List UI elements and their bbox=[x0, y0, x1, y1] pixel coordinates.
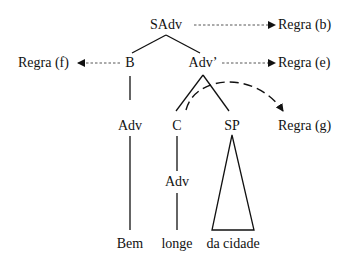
leaf-da-cidade: da cidade bbox=[206, 236, 259, 252]
sp-triangle bbox=[212, 135, 254, 230]
node-sadv: SAdv bbox=[150, 17, 182, 33]
node-adv-b: Adv bbox=[118, 118, 142, 134]
node-adv-bar: Adv’ bbox=[189, 55, 218, 71]
rule-b-label: Regra (b) bbox=[278, 17, 331, 33]
edge-advbar-sp bbox=[203, 75, 229, 111]
leaf-bem: Bem bbox=[117, 236, 143, 252]
node-c: C bbox=[172, 118, 181, 134]
edge-sadv-advbar bbox=[166, 35, 200, 53]
syntax-tree-diagram: SAdv B Adv’ Adv C SP Adv Bem longe da ci… bbox=[0, 0, 354, 264]
edge-sadv-b bbox=[132, 35, 166, 53]
rule-f-label: Regra (f) bbox=[18, 55, 69, 71]
node-adv-c: Adv bbox=[165, 174, 189, 190]
node-sp: SP bbox=[224, 118, 240, 134]
edge-advbar-c bbox=[176, 75, 203, 111]
arrow-c-rule-g bbox=[186, 82, 283, 111]
rule-g-label: Regra (g) bbox=[278, 118, 331, 134]
node-b: B bbox=[125, 55, 134, 71]
rule-e-label: Regra (e) bbox=[278, 55, 330, 71]
leaf-longe: longe bbox=[161, 236, 192, 252]
